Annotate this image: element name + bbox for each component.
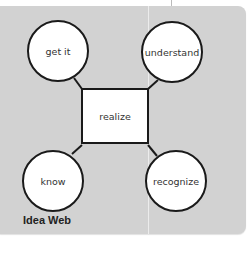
node-label: know xyxy=(40,176,65,187)
node-realize-center: realize xyxy=(81,88,149,144)
node-recognize: recognize xyxy=(145,150,207,212)
node-label: understand xyxy=(145,47,199,58)
node-label: realize xyxy=(99,111,130,122)
diagram-caption: Idea Web xyxy=(23,214,71,226)
node-label: recognize xyxy=(153,176,199,187)
node-know: know xyxy=(22,150,84,212)
node-get-it: get it xyxy=(27,20,89,82)
node-label: get it xyxy=(46,46,71,57)
node-understand: understand xyxy=(141,21,203,83)
